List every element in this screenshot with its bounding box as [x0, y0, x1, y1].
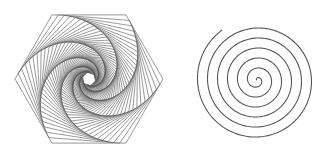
- hexagon-ring: [43, 34, 136, 124]
- archimedean-spiral-figure: [198, 28, 312, 137]
- hexagon-ring: [18, 15, 160, 143]
- hexagon-ring: [40, 26, 137, 133]
- figure-canvas: [0, 0, 335, 150]
- hexagon-ring: [15, 15, 163, 143]
- hexagon-ring: [55, 44, 122, 114]
- hexagon-ring: [29, 18, 149, 141]
- hexagonal-whirl-figure: [15, 15, 163, 143]
